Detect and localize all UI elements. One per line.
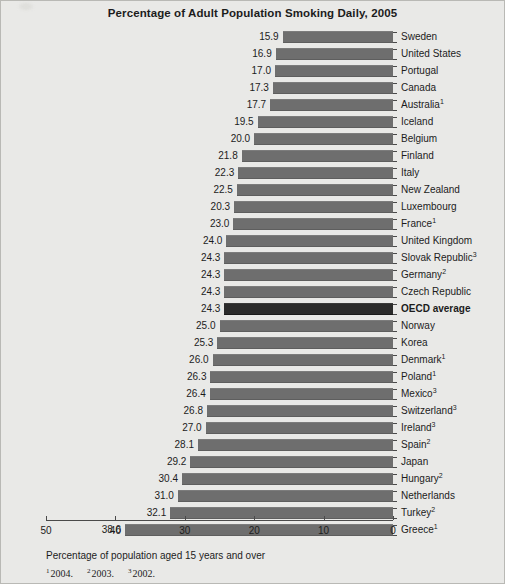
category-tick (393, 83, 397, 84)
category-tick (393, 457, 397, 458)
chart-row: 25.3Korea (1, 335, 505, 352)
chart-row: 24.3OECD average (1, 301, 505, 318)
category-tick (393, 76, 397, 77)
bar-value-label: 29.2 (66, 455, 186, 468)
category-tick (393, 474, 397, 475)
category-tick (393, 246, 397, 247)
chart-row: 26.4Mexico3 (1, 386, 505, 403)
category-tick (393, 331, 397, 332)
category-tick (393, 66, 397, 67)
bar (178, 490, 393, 502)
footnotes-block: Percentage of population aged 15 years a… (46, 549, 486, 581)
category-tick (393, 134, 397, 135)
bar-value-label: 24.3 (100, 268, 220, 281)
category-label: Japan (401, 455, 428, 468)
category-tick (393, 297, 397, 298)
bar-value-label: 31.0 (54, 489, 174, 502)
chart-row: 17.7Australia1 (1, 97, 505, 114)
x-axis-tick (254, 516, 255, 520)
bar (210, 371, 393, 383)
category-label: Switzerland3 (401, 404, 457, 417)
bar-value-label: 25.0 (96, 319, 216, 332)
category-tick (393, 117, 397, 118)
category-tick (393, 365, 397, 366)
chart-row: 20.3Luxembourg (1, 199, 505, 216)
category-tick (393, 423, 397, 424)
chart-row: 24.0United Kingdom (1, 233, 505, 250)
x-axis-line (46, 520, 393, 521)
category-tick (393, 314, 397, 315)
chart-row: 24.3Germany2 (1, 267, 505, 284)
chart-row: 26.0Denmark1 (1, 352, 505, 369)
footnote-marker: 3 (432, 421, 436, 428)
bar (198, 439, 393, 451)
x-axis-tick (185, 516, 186, 520)
category-tick (393, 212, 397, 213)
footnote-marker: 1 (432, 217, 436, 224)
bar-value-label: 25.3 (93, 336, 213, 349)
category-tick (393, 484, 397, 485)
footnote-entry: 32002. (128, 568, 155, 579)
chart-row: 24.3Czech Republic (1, 284, 505, 301)
footnote-marker: 3 (128, 567, 132, 575)
category-label: Slovak Republic3 (401, 251, 477, 264)
bar (234, 201, 393, 213)
category-tick (393, 42, 397, 43)
footnote-entry: 22003. (87, 568, 114, 579)
category-label: Belgium (401, 132, 437, 145)
footnote-marker: 3 (433, 387, 437, 394)
chart-row: 25.0Norway (1, 318, 505, 335)
bar-value-label: 24.3 (100, 285, 220, 298)
bar-value-label: 24.0 (102, 234, 222, 247)
category-tick (393, 59, 397, 60)
x-axis-tick-label: 10 (304, 525, 344, 536)
bar (207, 405, 393, 417)
chart-row: 17.0Portugal (1, 63, 505, 80)
category-label: Australia1 (401, 98, 444, 111)
bar (224, 286, 393, 298)
category-label: Spain2 (401, 438, 430, 451)
bar-value-label: 32.1 (46, 506, 166, 519)
x-axis-tick-label: 50 (26, 525, 66, 536)
bar (258, 116, 393, 128)
chart-row: 24.3Slovak Republic3 (1, 250, 505, 267)
x-axis-tick-label: 30 (165, 525, 205, 536)
bar (217, 337, 393, 349)
x-axis-tick (115, 516, 116, 520)
bar (273, 82, 393, 94)
category-tick (393, 355, 397, 356)
footnote-marker: 3 (473, 251, 477, 258)
bar (213, 354, 393, 366)
category-label: OECD average (401, 302, 470, 315)
category-label: Germany2 (401, 268, 446, 281)
bar (270, 99, 393, 111)
x-axis-tick (324, 516, 325, 520)
x-axis-tick (393, 516, 394, 520)
category-tick (393, 161, 397, 162)
category-tick (393, 253, 397, 254)
category-label: Ireland3 (401, 421, 435, 434)
category-tick (393, 321, 397, 322)
category-tick (393, 389, 397, 390)
category-tick (393, 185, 397, 186)
category-tick (393, 508, 397, 509)
bar-chart-plot-area: 15.9Sweden16.9United States17.0Portugal1… (1, 29, 505, 513)
category-tick (393, 127, 397, 128)
category-tick (393, 100, 397, 101)
bar-value-label: 24.3 (100, 302, 220, 315)
category-label: United Kingdom (401, 234, 472, 247)
bar (220, 320, 394, 332)
bar-value-label: 20.0 (130, 132, 250, 145)
bar-value-label: 19.5 (134, 115, 254, 128)
chart-row: 22.5New Zealand (1, 182, 505, 199)
category-tick (393, 202, 397, 203)
category-label: Luxembourg (401, 200, 457, 213)
chart-row: 15.9Sweden (1, 29, 505, 46)
bar-value-label: 21.8 (118, 149, 238, 162)
category-tick (393, 280, 397, 281)
bar (210, 388, 393, 400)
x-axis-tick (46, 516, 47, 520)
category-tick (393, 144, 397, 145)
category-tick (393, 93, 397, 94)
footnote-marker: 1 (432, 370, 436, 377)
